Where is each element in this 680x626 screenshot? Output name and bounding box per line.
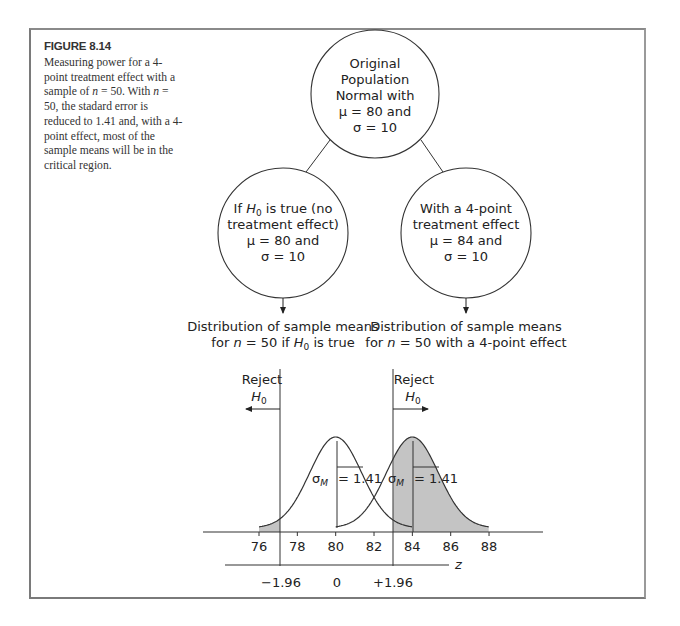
svg-text:μ = 84 and: μ = 84 and bbox=[430, 233, 503, 248]
x-tick-label: 88 bbox=[481, 539, 498, 554]
svg-text:= 1.41: = 1.41 bbox=[338, 471, 382, 486]
x-tick-label: 86 bbox=[442, 539, 459, 554]
svg-text:treatment effect: treatment effect bbox=[413, 217, 520, 232]
svg-text:σ = 10: σ = 10 bbox=[444, 249, 488, 264]
svg-text:Distribution of sample means: Distribution of sample means bbox=[370, 319, 562, 334]
svg-text:= 1.41: = 1.41 bbox=[414, 471, 458, 486]
z-axis-ticks: −1.960+1.96 bbox=[261, 575, 413, 590]
svg-text:H0: H0 bbox=[405, 389, 421, 406]
svg-text:Original: Original bbox=[350, 56, 401, 71]
x-tick-label: 82 bbox=[366, 539, 383, 554]
z-tick-label: −1.96 bbox=[261, 575, 301, 590]
z-tick-label: +1.96 bbox=[373, 575, 413, 590]
label-effect-distribution: Distribution of sample means for n = 50 … bbox=[365, 319, 566, 350]
reject-h0-right: Reject H0 bbox=[393, 372, 434, 409]
svg-text:Reject: Reject bbox=[242, 372, 282, 387]
svg-text:Population: Population bbox=[341, 72, 409, 87]
z-tick-label: 0 bbox=[333, 575, 341, 590]
node-h0-true: If H0 is true (no treatment effect) μ = … bbox=[218, 168, 348, 298]
svg-text:for n = 50 with a 4-point effe: for n = 50 with a 4-point effect bbox=[365, 335, 566, 350]
svg-text:μ = 80 and: μ = 80 and bbox=[339, 104, 412, 119]
svg-text:H0: H0 bbox=[251, 389, 267, 406]
x-tick-label: 76 bbox=[251, 539, 268, 554]
z-axis-label: z bbox=[454, 557, 463, 572]
svg-text:Normal with: Normal with bbox=[336, 88, 415, 103]
connector-right bbox=[421, 140, 443, 172]
svg-text:treatment effect): treatment effect) bbox=[227, 217, 339, 232]
svg-text:μ = 80 and: μ = 80 and bbox=[247, 233, 320, 248]
svg-text:for n = 50 if H0 is true: for n = 50 if H0 is true bbox=[211, 335, 354, 352]
reject-h0-left: Reject H0 bbox=[242, 372, 282, 409]
svg-text:With a 4-point: With a 4-point bbox=[420, 201, 512, 216]
svg-text:σ = 10: σ = 10 bbox=[261, 249, 305, 264]
x-tick-label: 78 bbox=[289, 539, 306, 554]
svg-text:σ = 10: σ = 10 bbox=[353, 120, 397, 135]
node-original-population: Original Population Normal with μ = 80 a… bbox=[311, 30, 439, 158]
x-tick-label: 80 bbox=[327, 539, 344, 554]
svg-text:Reject: Reject bbox=[394, 372, 434, 387]
power-diagram: Original Population Normal with μ = 80 a… bbox=[0, 0, 680, 626]
label-h0-distribution: Distribution of sample means for n = 50 … bbox=[187, 319, 379, 352]
svg-text:If H0 is true (no: If H0 is true (no bbox=[234, 201, 333, 218]
svg-text:Distribution of sample means: Distribution of sample means bbox=[187, 319, 379, 334]
sigma-label-h0: σM = 1.41 bbox=[311, 471, 382, 488]
node-treatment-effect: With a 4-point treatment effect μ = 84 a… bbox=[401, 168, 531, 298]
connector-left bbox=[306, 140, 330, 172]
x-tick-label: 84 bbox=[404, 539, 421, 554]
x-axis-ticks: 76788082848688 bbox=[251, 532, 498, 554]
